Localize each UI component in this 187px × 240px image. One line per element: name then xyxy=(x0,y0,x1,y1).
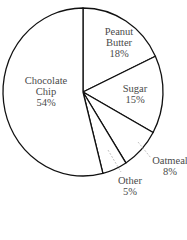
label-oatmeal-pct: 8% xyxy=(148,166,187,177)
label-peanut-butter-name-2: Butter xyxy=(93,37,145,48)
label-oatmeal: Oatmeal 8% xyxy=(148,155,187,177)
label-chocolate-chip-name-1: Chocolate xyxy=(16,75,76,86)
label-peanut-butter-pct: 18% xyxy=(93,48,145,59)
label-sugar-name: Sugar xyxy=(110,83,160,94)
label-chocolate-chip-pct: 54% xyxy=(16,97,76,108)
label-other-name: Other xyxy=(112,175,148,186)
label-other: Other 5% xyxy=(112,175,148,197)
label-peanut-butter-name-1: Peanut xyxy=(93,26,145,37)
label-chocolate-chip-name-2: Chip xyxy=(16,86,76,97)
label-sugar-pct: 15% xyxy=(110,94,160,105)
label-oatmeal-name: Oatmeal xyxy=(148,155,187,166)
label-peanut-butter: Peanut Butter 18% xyxy=(93,26,145,59)
label-sugar: Sugar 15% xyxy=(110,83,160,105)
label-chocolate-chip: Chocolate Chip 54% xyxy=(16,75,76,108)
label-other-pct: 5% xyxy=(112,186,148,197)
